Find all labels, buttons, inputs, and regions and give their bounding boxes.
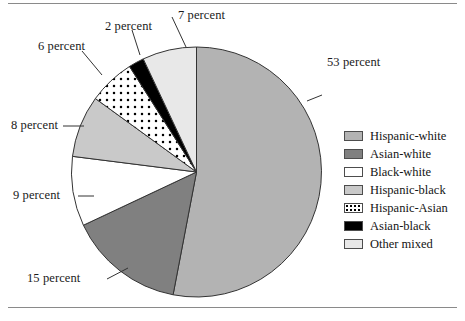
legend-item-label: Hispanic-black	[370, 184, 446, 197]
legend-item-label: Hispanic-Asian	[370, 202, 448, 215]
legend-item-other-mixed[interactable]: Other mixed	[344, 235, 448, 253]
callout-8-percent: 8 percent	[11, 118, 58, 133]
pie-slices-group	[72, 47, 322, 297]
legend-swatch-icon	[344, 167, 363, 177]
legend: Hispanic-whiteAsian-whiteBlack-whiteHisp…	[344, 127, 448, 253]
legend-swatch-icon	[344, 239, 363, 249]
legend-item-hispanic-black[interactable]: Hispanic-black	[344, 181, 448, 199]
legend-item-black-white[interactable]: Black-white	[344, 163, 448, 181]
callout-7-percent: 7 percent	[178, 8, 225, 23]
legend-item-asian-black[interactable]: Asian-black	[344, 217, 448, 235]
legend-item-hispanic-white[interactable]: Hispanic-white	[344, 127, 448, 145]
pie-chart-figure: 53 percent 15 percent 9 percent 8 percen…	[0, 0, 465, 321]
legend-swatch-icon	[344, 131, 363, 141]
legend-item-label: Asian-white	[370, 148, 431, 161]
legend-item-label: Other mixed	[370, 238, 433, 251]
callout-2-percent: 2 percent	[105, 19, 152, 34]
legend-swatch-icon	[344, 203, 363, 213]
legend-item-label: Hispanic-white	[370, 130, 446, 143]
legend-item-label: Black-white	[370, 166, 431, 179]
legend-item-hispanic-asian[interactable]: Hispanic-Asian	[344, 199, 448, 217]
callout-53-percent: 53 percent	[327, 55, 380, 70]
legend-item-asian-white[interactable]: Asian-white	[344, 145, 448, 163]
legend-item-label: Asian-black	[370, 220, 430, 233]
callout-9-percent: 9 percent	[13, 188, 60, 203]
legend-swatch-icon	[344, 221, 363, 231]
callout-6-percent: 6 percent	[38, 39, 85, 54]
legend-swatch-icon	[344, 149, 363, 159]
legend-swatch-icon	[344, 185, 363, 195]
leader-line-53	[307, 95, 322, 101]
leader-line-6	[82, 51, 102, 75]
callout-15-percent: 15 percent	[27, 271, 80, 286]
